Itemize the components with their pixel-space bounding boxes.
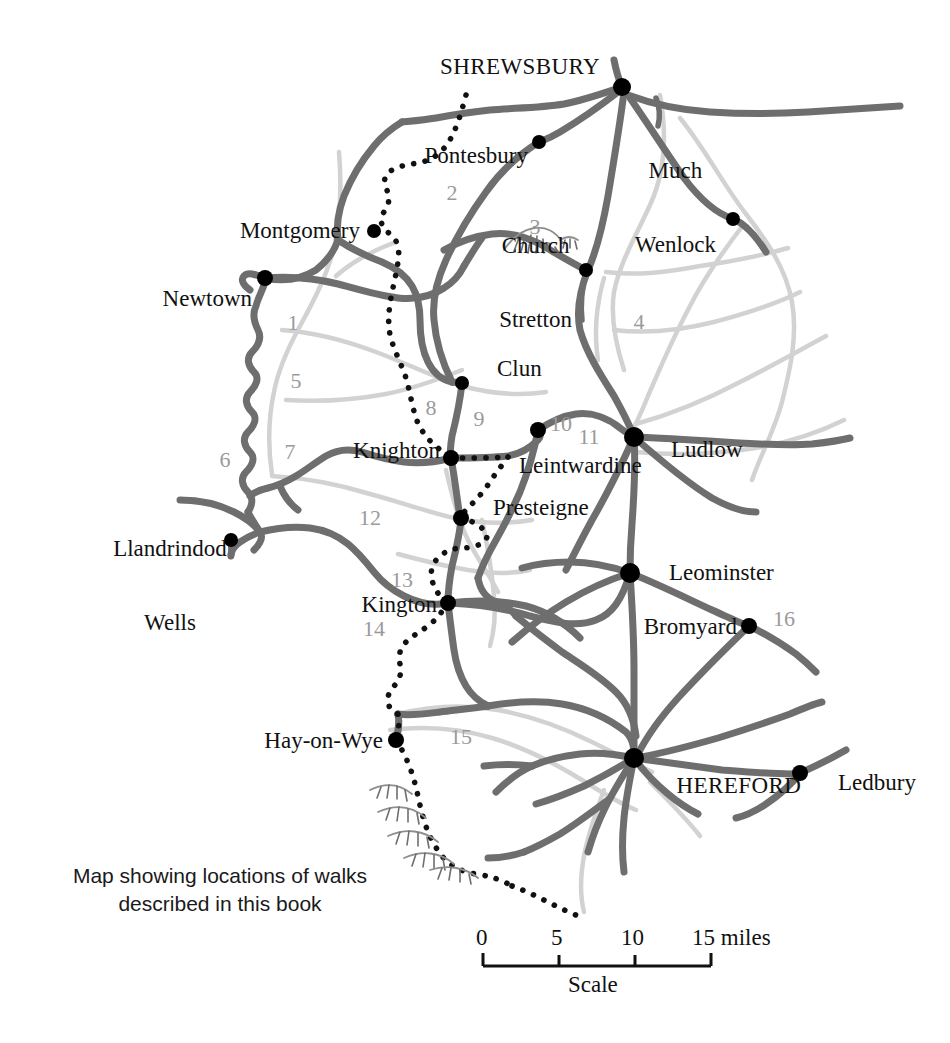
place-label-kington: Kington xyxy=(339,568,437,642)
place-label-text: Ledbury xyxy=(838,770,916,795)
place-label-knighton: Knighton xyxy=(330,414,440,488)
town-dot-clun xyxy=(455,376,469,390)
walk-number-2: 2 xyxy=(447,180,458,206)
place-label-text: Wenlock xyxy=(635,233,716,258)
town-dot-montgomery xyxy=(367,224,381,238)
place-label-clun: Clun xyxy=(474,332,542,406)
place-label-text: Bromyard xyxy=(644,614,737,639)
place-label-text: Kington xyxy=(362,592,437,617)
place-label-ledbury: Ledbury xyxy=(815,746,916,820)
map-figure: .road { fill:none; stroke:#6e6e6e; strok… xyxy=(0,0,950,1043)
place-label-text: Pontesbury xyxy=(425,143,529,168)
place-label-text: Wells xyxy=(113,611,227,636)
walk-number-6: 6 xyxy=(220,447,231,473)
scale-bar xyxy=(483,953,711,966)
place-label-text: Much xyxy=(635,158,716,183)
walk-number-12: 12 xyxy=(359,505,381,531)
place-label-text: Presteigne xyxy=(493,495,589,520)
walk-number-1: 1 xyxy=(288,310,299,336)
place-label-bromyard: Bromyard xyxy=(621,590,737,664)
map-caption-line-1: Map showing locations of walks xyxy=(30,862,410,890)
place-label-much-wenlock: Much Wenlock xyxy=(635,109,716,308)
town-dot-kington xyxy=(440,595,456,611)
walk-number-11: 11 xyxy=(578,424,599,450)
place-label-montgomery: Montgomery xyxy=(217,194,360,268)
town-dot-leominster xyxy=(620,563,640,583)
town-dot-much-wenlock xyxy=(726,212,740,226)
place-label-presteigne: Presteigne xyxy=(470,471,589,545)
place-label-ludlow: Ludlow xyxy=(648,413,743,487)
town-dot-newtown xyxy=(257,270,273,286)
place-label-text: Newtown xyxy=(163,286,252,311)
town-dot-hay-on-wye xyxy=(388,732,404,748)
place-label-hereford: HEREFORD xyxy=(652,749,801,823)
walk-number-15: 15 xyxy=(450,724,472,750)
walk-number-7: 7 xyxy=(285,439,296,465)
place-label-text: Leominster xyxy=(669,560,774,585)
place-label-text: SHREWSBURY xyxy=(440,54,600,79)
place-label-text: Montgomery xyxy=(240,218,360,243)
scale-tick-15-miles: 15 miles xyxy=(692,925,771,951)
walk-number-5: 5 xyxy=(291,368,302,394)
town-dot-pontesbury xyxy=(532,135,546,149)
walk-number-14: 14 xyxy=(363,616,385,642)
place-label-llandrindod-wells: Llandrindod Wells xyxy=(113,487,227,686)
walk-number-10: 10 xyxy=(550,411,572,437)
place-label-hay-on-wye: Hay-on-Wye xyxy=(241,704,383,778)
scale-tick-5: 5 xyxy=(551,925,563,951)
town-dot-hereford xyxy=(624,748,644,768)
walk-number-3: 3 xyxy=(530,214,541,240)
place-label-text: Ludlow xyxy=(671,437,743,462)
scale-tick-10: 10 xyxy=(621,925,644,951)
walk-number-4: 4 xyxy=(634,309,645,335)
town-dot-presteigne xyxy=(453,510,469,526)
place-label-pontesbury: Pontesbury xyxy=(402,119,529,193)
map-caption-line-2: described in this book xyxy=(30,890,410,918)
walk-number-13: 13 xyxy=(391,567,413,593)
town-dot-church-stretton xyxy=(579,263,593,277)
scale-caption: Scale xyxy=(568,972,618,998)
place-label-text: Knighton xyxy=(353,438,440,463)
scale-tick-0: 0 xyxy=(476,925,488,951)
place-label-text: Stretton xyxy=(499,308,572,333)
place-label-text: Llandrindod xyxy=(113,536,227,561)
walk-number-16: 16 xyxy=(773,606,795,632)
place-label-newtown: Newtown xyxy=(140,262,252,336)
town-dot-knighton xyxy=(443,450,459,466)
place-label-text: Clun xyxy=(497,356,542,381)
walk-number-9: 9 xyxy=(474,406,485,432)
town-dot-shrewsbury xyxy=(613,78,631,96)
place-label-text: HEREFORD xyxy=(677,773,802,798)
map-caption: Map showing locations of walks described… xyxy=(30,862,410,919)
place-label-text: Hay-on-Wye xyxy=(264,728,383,753)
walk-number-8: 8 xyxy=(426,395,437,421)
town-dot-bromyard xyxy=(741,618,757,634)
place-label-shrewsbury: SHREWSBURY xyxy=(415,30,600,104)
